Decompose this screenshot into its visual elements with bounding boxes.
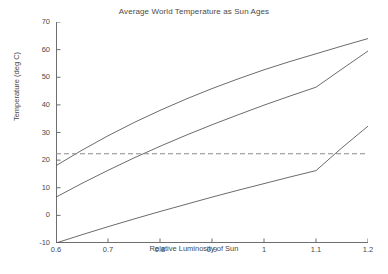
series-line-middle-curve: [56, 51, 368, 197]
y-tick-label: 30: [16, 128, 50, 137]
axis-lines: [56, 22, 368, 243]
data-series-group: [56, 39, 368, 243]
y-tick-label: 20: [16, 155, 50, 164]
x-tick-label: 1.1: [301, 245, 331, 254]
x-tick-label: 1.2: [353, 245, 383, 254]
y-tick-label: 60: [16, 45, 50, 54]
chart-title: Average World Temperature as Sun Ages: [0, 7, 388, 16]
y-tick-label: 0: [16, 210, 50, 219]
x-tick-label: 0.6: [41, 245, 71, 254]
y-tick-label: 40: [16, 100, 50, 109]
x-tick-label: 1: [249, 245, 279, 254]
series-line-lower-curve: [56, 126, 368, 243]
plot-area: -10010203040506070 0.60.70.80.911.11.2: [56, 22, 368, 243]
x-tick-label: 0.9: [197, 245, 227, 254]
plot-canvas: [56, 22, 368, 243]
x-tick-label: 0.7: [93, 245, 123, 254]
chart-figure: Average World Temperature as Sun Ages Te…: [0, 0, 388, 274]
x-tick-label: 0.8: [145, 245, 175, 254]
y-tick-label: 50: [16, 72, 50, 81]
x-axis-ticks: [56, 239, 368, 243]
y-tick-label: 70: [16, 17, 50, 26]
y-tick-label: 10: [16, 183, 50, 192]
y-axis-ticks: [57, 22, 61, 243]
series-line-upper-curve: [56, 39, 368, 166]
